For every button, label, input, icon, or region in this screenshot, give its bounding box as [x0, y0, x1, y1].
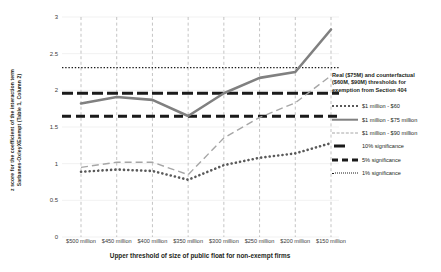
dotted-marker-key [332, 101, 358, 111]
legend-items: $1 million - $60$1 million - $75 million… [332, 101, 440, 178]
solid-line-key [332, 115, 358, 125]
series-line [81, 143, 331, 180]
x-axis-title: Upper threshold of size of public float … [0, 252, 400, 259]
legend-item-label: $1 million - $75 million [362, 117, 417, 123]
x-tick-label: $250 million [245, 238, 275, 244]
y-axis-title-line2: Sarbanes-OxleyXExempt (Table 1, Column 2… [16, 69, 23, 191]
x-tick-label: $350 million [173, 238, 203, 244]
legend-title: Real ($75M) and counterfactual ($60M, $9… [332, 72, 440, 94]
legend-item-label: $1 million - $60 [362, 103, 400, 109]
thick-dash-key [332, 141, 358, 151]
y-tick-label: 3 [32, 14, 58, 20]
legend-item[interactable]: $1 million - $60 [332, 101, 440, 111]
legend-item-label: 5% significance [362, 157, 401, 163]
plot-svg [62, 17, 339, 237]
x-tick-label: $450 million [102, 238, 132, 244]
legend-item-label: 10% significance [362, 143, 404, 149]
plot-area [62, 17, 339, 237]
chart-container: z score for the coefficient of the inter… [0, 0, 441, 272]
series-line [81, 29, 331, 116]
legend-item-label: 1% significance [362, 170, 401, 176]
legend-item[interactable]: $1 million - $90 million [332, 128, 440, 138]
y-tick-label: 1.5 [32, 124, 58, 130]
y-tick-label: 1 [32, 161, 58, 167]
y-tick-label: 2 [32, 87, 58, 93]
y-tick-label: 0.5 [32, 197, 58, 203]
legend-item[interactable]: 10% significance [332, 141, 440, 151]
x-tick-label: $300 million [209, 238, 239, 244]
chart-legend: Real ($75M) and counterfactual ($60M, $9… [332, 72, 440, 182]
legend-item[interactable]: $1 million - $75 million [332, 115, 440, 125]
y-tick-label: 2.5 [32, 51, 58, 57]
legend-title-line1: Real ($75M) and counterfactual [332, 72, 440, 79]
x-tick-label: $150 million [316, 238, 346, 244]
x-tick-label: $500 million [66, 238, 96, 244]
legend-item-label: $1 million - $90 million [362, 130, 417, 136]
legend-item[interactable]: 1% significance [332, 168, 440, 178]
y-axis-ticks: 00.511.522.53 [28, 0, 58, 272]
fine-dotted-key [332, 168, 358, 178]
x-axis-ticks: $500 million$450 million$400 million$350… [62, 238, 339, 250]
y-tick-label: 0 [32, 234, 58, 240]
x-tick-label: $200 million [280, 238, 310, 244]
legend-title-line2: ($60M, $90M) thresholds for [332, 79, 440, 86]
thick-dash-long-key [332, 155, 358, 165]
y-axis-title-line1: z score for the coefficient of the inter… [9, 69, 16, 191]
dashed-line-key [332, 128, 358, 138]
x-tick-label: $400 million [137, 238, 167, 244]
legend-item[interactable]: 5% significance [332, 155, 440, 165]
legend-title-line3: exemption from Section 404 [332, 87, 440, 94]
y-axis-title: z score for the coefficient of the inter… [8, 40, 24, 220]
